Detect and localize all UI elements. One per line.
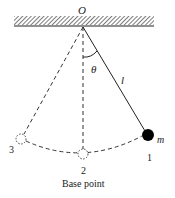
base-point-caption: Base point	[62, 178, 105, 189]
string-position-1	[83, 27, 145, 131]
ceiling-support	[14, 16, 154, 26]
length-label: l	[121, 74, 124, 86]
angle-arc	[83, 51, 97, 57]
position-1-label: 1	[147, 152, 152, 163]
angle-label: θ	[91, 63, 97, 75]
pendulum-diagram: O θ l m 1 2 3 Base point	[0, 0, 175, 198]
bob-position-3	[16, 134, 26, 144]
position-3-label: 3	[9, 144, 14, 155]
bob-position-1	[142, 129, 154, 141]
position-2-label: 2	[81, 165, 86, 176]
pivot-label: O	[78, 4, 86, 16]
bob-position-2	[78, 149, 88, 159]
mass-label: m	[157, 134, 164, 145]
string-position-3	[24, 27, 83, 134]
